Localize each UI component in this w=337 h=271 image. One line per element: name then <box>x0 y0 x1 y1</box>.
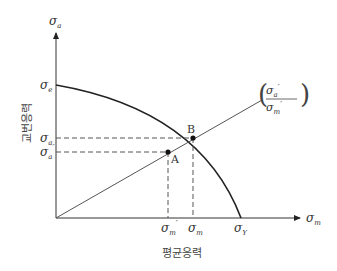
y-axis-title: 교번응력 <box>21 103 34 143</box>
point-a-label: A <box>170 153 180 166</box>
point-a-marker <box>165 149 170 154</box>
y-tick-sigma-a-prime: σa′ <box>40 143 54 161</box>
load-line <box>56 100 262 218</box>
x-tick-sigma-y: σY <box>234 221 248 237</box>
fatigue-diagram: A B σa σm σe σa σa′ σm′ σm σY ( ) σa′ σm… <box>0 0 337 271</box>
point-b-label: B <box>187 123 195 136</box>
ratio-label: ( ) σa′ σm′ <box>258 79 310 116</box>
x-tick-sigma-m: σm <box>188 221 203 237</box>
svg-text:σa′: σa′ <box>266 82 280 99</box>
svg-text:σm′: σm′ <box>266 99 282 116</box>
svg-text:): ) <box>300 79 310 109</box>
x-tick-sigma-m-prime: σm′ <box>161 219 178 237</box>
point-b-marker <box>190 135 195 140</box>
y-axis-symbol: σa <box>49 14 61 30</box>
x-axis-symbol: σm <box>306 211 321 227</box>
x-axis-title: 평균응력 <box>162 247 202 260</box>
y-tick-sigma-e: σe <box>40 78 52 94</box>
